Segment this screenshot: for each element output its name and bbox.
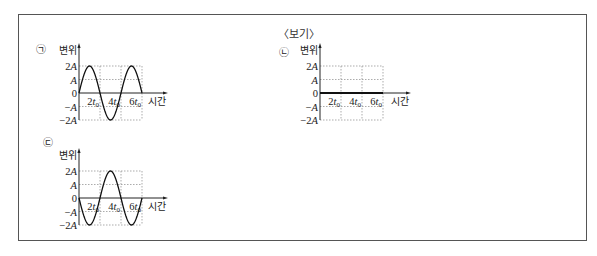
y-tick-label: 0 [313,88,318,99]
y-axis-label: 변위 [59,44,77,56]
y-tick-label: −A [65,102,78,113]
y-axis-arrow-icon [318,43,321,48]
graph-b: ㉡변위시간2AA0−A−2A2t04t06t0 [279,43,411,126]
x-axis-label: 시간 [391,96,409,107]
y-tick-label: −2A [300,115,318,126]
x-axis-arrow-icon [406,91,411,94]
y-tick-label: 0 [72,88,77,99]
y-tick-label: −2A [59,220,77,231]
y-tick-label: −A [65,207,78,218]
x-axis-arrow-icon [163,196,168,199]
y-tick-label: A [311,75,319,86]
x-axis-label: 시간 [148,201,166,212]
y-axis-label: 변위 [59,149,77,161]
x-tick-label: 2t0 [328,96,340,109]
y-tick-label: 0 [72,193,77,204]
y-axis-arrow-icon [77,43,80,48]
y-tick-label: −2A [59,115,77,126]
graph-c: ㉢변위시간2AA0−A−2A2t04t06t0 [43,137,168,231]
x-tick-label: 4t0 [349,96,361,109]
y-axis-arrow-icon [77,148,80,153]
y-tick-label: A [70,180,78,191]
y-tick-label: A [70,75,78,86]
y-tick-label: −A [306,102,319,113]
x-tick-label: 2t0 [87,96,99,109]
item-marker: ㉠ [36,44,46,55]
x-tick-label: 6t0 [129,96,141,109]
y-tick-label: 2A [306,61,318,72]
y-tick-label: 2A [65,166,77,177]
x-tick-label: 4t0 [108,201,120,214]
y-axis-label: 변위 [300,44,318,56]
item-marker: ㉡ [279,47,289,58]
x-axis-label: 시간 [148,96,166,107]
x-axis-arrow-icon [163,91,168,94]
graphs-canvas: ㉠변위시간2AA0−A−2A2t04t06t0㉡변위시간2AA0−A−2A2t0… [0,0,597,256]
y-tick-label: 2A [65,61,77,72]
x-tick-label: 6t0 [370,96,382,109]
item-marker: ㉢ [43,137,53,148]
graph-a: ㉠변위시간2AA0−A−2A2t04t06t0 [36,43,168,126]
